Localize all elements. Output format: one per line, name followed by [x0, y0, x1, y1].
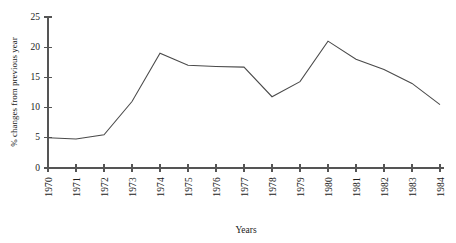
x-tick-label-1978: 1978: [268, 177, 278, 197]
x-tick-label-1982: 1982: [380, 177, 390, 197]
x-tick-label-1970: 1970: [44, 177, 54, 197]
x-tick-label-1980: 1980: [324, 177, 334, 197]
x-tick-label-1973: 1973: [128, 177, 138, 197]
y-tick-label-20: 20: [31, 42, 41, 52]
chart-plot-area: 0510152025 19701971197219731974197519761…: [0, 0, 456, 243]
y-tick-label-0: 0: [35, 163, 40, 173]
x-axis-title: Years: [235, 225, 257, 235]
y-tick-label-15: 15: [31, 72, 41, 82]
x-tick-label-1976: 1976: [212, 177, 222, 197]
y-tick-label-25: 25: [31, 12, 41, 22]
x-tick-label-1975: 1975: [184, 177, 194, 197]
y-tick-label-10: 10: [31, 102, 41, 112]
x-tick-label-1974: 1974: [156, 177, 166, 197]
x-axis-tick-labels: 1970197119721973197419751976197719781979…: [44, 177, 446, 197]
x-tick-label-1971: 1971: [72, 177, 82, 197]
x-axis: 1970197119721973197419751976197719781979…: [44, 164, 446, 197]
line-chart: 0510152025 19701971197219731974197519761…: [0, 0, 456, 243]
x-tick-label-1984: 1984: [436, 177, 446, 197]
y-axis: 0510152025: [31, 12, 53, 173]
y-tick-label-5: 5: [35, 132, 40, 142]
x-tick-label-1983: 1983: [408, 177, 418, 197]
y-axis-tick-labels: 0510152025: [31, 12, 41, 173]
data-series-line: [48, 41, 440, 139]
x-tick-label-1979: 1979: [296, 177, 306, 197]
x-tick-label-1981: 1981: [352, 177, 362, 197]
x-tick-label-1977: 1977: [240, 177, 250, 197]
y-axis-title: % changes from previous year: [9, 37, 19, 146]
x-tick-label-1972: 1972: [100, 177, 110, 197]
